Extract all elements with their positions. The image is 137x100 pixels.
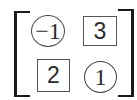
- matrix-cell-circled: −1: [31, 15, 65, 47]
- matrix-cell-boxed: 3: [83, 16, 117, 46]
- matrix-cell-boxed: 2: [37, 59, 70, 92]
- right-bracket: [118, 9, 134, 97]
- matrix-cell-circled: 1: [84, 61, 117, 93]
- left-bracket: [14, 11, 30, 97]
